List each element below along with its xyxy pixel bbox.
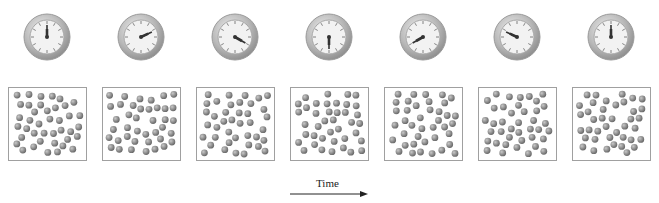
gas-particle: [159, 124, 166, 131]
gas-particle: [402, 142, 409, 149]
gas-particle: [302, 131, 309, 138]
gas-particle: [506, 93, 513, 100]
gas-particle: [409, 150, 416, 157]
gas-particle: [427, 106, 434, 113]
gas-particle: [205, 91, 212, 98]
gas-particle: [493, 140, 500, 147]
gas-particle: [430, 124, 437, 131]
gas-particle: [401, 130, 408, 137]
gas-particle: [47, 116, 54, 123]
gas-particle: [590, 116, 597, 123]
gas-particle: [64, 136, 71, 143]
gas-particle: [393, 99, 400, 106]
gas-particle: [629, 95, 636, 102]
gas-particle: [417, 149, 424, 156]
gas-particle: [204, 122, 211, 129]
gas-particle: [137, 106, 144, 113]
gas-particle: [69, 146, 76, 153]
gas-particle: [38, 93, 45, 100]
gas-particle: [515, 102, 522, 109]
gas-particle: [57, 96, 64, 103]
gas-particle: [628, 116, 635, 123]
gas-particle: [593, 92, 600, 99]
gas-particle: [222, 109, 229, 116]
gas-particle: [353, 92, 360, 99]
gas-particle: [260, 126, 267, 133]
gas-particle: [515, 119, 522, 126]
gas-particle: [624, 149, 631, 156]
gas-particle: [343, 101, 350, 108]
gas-particle: [392, 122, 399, 129]
gas-particle: [295, 139, 302, 146]
gas-particle: [628, 136, 635, 143]
gas-particle: [630, 108, 637, 115]
gas-particle: [340, 145, 347, 152]
gas-particle: [220, 118, 227, 125]
gas-particle: [393, 107, 400, 114]
gas-particle: [546, 128, 553, 135]
gas-particle: [50, 130, 57, 137]
gas-particle: [415, 133, 422, 140]
particle-container-box: [8, 87, 87, 161]
gas-particle: [133, 115, 140, 122]
gas-particle: [324, 91, 331, 98]
gas-particle: [213, 98, 220, 105]
gas-particle: [226, 139, 233, 146]
gas-particle: [405, 98, 412, 105]
gas-particle: [576, 102, 583, 109]
gas-particle: [27, 117, 34, 124]
time-arrow-icon: [290, 190, 370, 198]
gas-particle: [446, 141, 453, 148]
gas-particle: [354, 112, 361, 119]
gas-particle: [358, 147, 365, 154]
clock-icon: [304, 12, 354, 62]
gas-particle: [76, 112, 83, 119]
gas-particle: [128, 146, 135, 153]
gas-particle: [225, 129, 232, 136]
gas-particle: [639, 96, 646, 103]
gas-particle: [214, 124, 221, 131]
gas-particle: [590, 147, 597, 154]
gas-particle: [506, 134, 513, 141]
particle-container-box: [290, 87, 369, 161]
gas-particle: [636, 115, 643, 122]
gas-particle: [160, 92, 167, 99]
gas-particle: [295, 109, 302, 116]
gas-particle: [117, 101, 124, 108]
gas-particle: [313, 100, 320, 107]
gas-particle: [75, 124, 82, 131]
gas-particle: [30, 143, 37, 150]
gas-particle: [229, 117, 236, 124]
gas-particle: [261, 106, 268, 113]
gas-particle: [541, 103, 548, 110]
gas-particle: [261, 137, 268, 144]
gas-particle: [23, 125, 30, 132]
gas-particle: [631, 144, 638, 151]
gas-particle: [603, 98, 610, 105]
gas-particle: [228, 101, 235, 108]
gas-particle: [18, 134, 25, 141]
gas-particle: [493, 91, 500, 98]
gas-particle: [302, 121, 309, 128]
gas-particle: [145, 139, 152, 146]
gas-particle: [221, 146, 228, 153]
gas-particle: [253, 134, 260, 141]
gas-particle: [321, 118, 328, 125]
gas-particle: [106, 134, 113, 141]
gas-particle: [452, 113, 459, 120]
gas-particle: [395, 91, 402, 98]
gas-particle: [621, 99, 628, 106]
gas-particle: [248, 100, 255, 107]
gas-particle: [146, 106, 153, 113]
gas-particle: [347, 149, 354, 156]
gas-particle: [611, 141, 618, 148]
gas-particle: [533, 98, 540, 105]
gas-particle: [488, 128, 495, 135]
gas-particle: [134, 128, 141, 135]
clock-icon: [492, 12, 542, 62]
gas-particle: [262, 148, 269, 155]
gas-particle: [137, 96, 144, 103]
gas-particle: [632, 125, 639, 132]
gas-particle: [607, 134, 614, 141]
gas-particle: [429, 150, 436, 157]
